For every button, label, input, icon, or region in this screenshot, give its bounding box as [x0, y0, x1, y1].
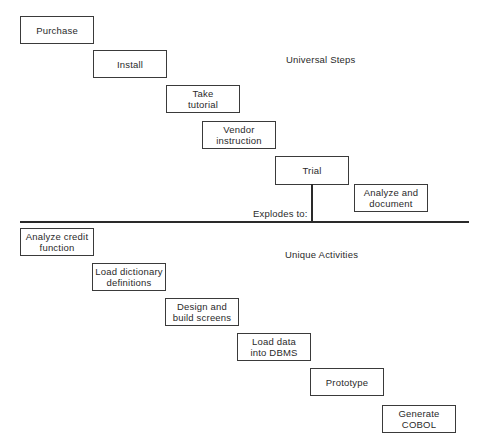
activity-load-data-into-dbms: Load data into DBMS	[237, 333, 311, 361]
step-analyze-and-document: Analyze and document	[354, 184, 428, 212]
step-vendor-instruction: Vendor instruction	[202, 121, 276, 149]
explode-connector-line	[311, 184, 313, 222]
activity-load-dictionary-definitions: Load dictionary definitions	[92, 263, 166, 291]
step-take-tutorial: Take tutorial	[166, 85, 240, 113]
step-install: Install	[93, 50, 167, 78]
unique-activities-label: Unique Activities	[285, 249, 358, 260]
universal-steps-label: Universal Steps	[286, 54, 356, 65]
activity-prototype: Prototype	[310, 368, 384, 396]
step-trial: Trial	[275, 156, 349, 185]
step-purchase: Purchase	[20, 16, 94, 44]
section-divider-line	[20, 221, 469, 223]
activity-generate-cobol: Generate COBOL	[382, 405, 456, 433]
activity-analyze-credit-function: Analyze credit function	[20, 228, 94, 256]
activity-design-build-screens: Design and build screens	[165, 298, 239, 326]
explodes-to-label: Explodes to:	[253, 208, 308, 219]
